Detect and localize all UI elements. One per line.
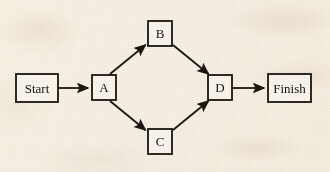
node-a[interactable] (92, 75, 116, 100)
flowchart-graph (0, 0, 330, 172)
node-start[interactable] (16, 74, 58, 102)
edge-c-d (173, 101, 209, 130)
node-c[interactable] (148, 129, 172, 154)
node-finish[interactable] (268, 74, 311, 102)
edge-a-b (110, 45, 146, 74)
node-b[interactable] (148, 21, 172, 46)
edge-a-c (110, 101, 146, 130)
flowchart-canvas: Start A B C D Finish (0, 0, 330, 172)
node-d[interactable] (208, 75, 232, 100)
edges-layer (58, 45, 264, 130)
edge-b-d (173, 45, 209, 74)
